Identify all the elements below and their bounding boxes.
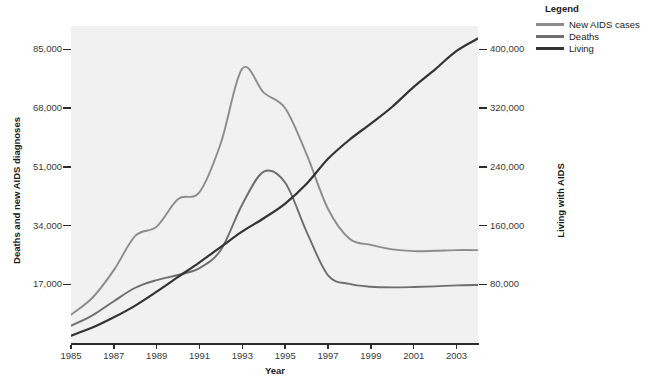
legend-item-2[interactable]: Living — [536, 43, 658, 54]
x-tick-mark — [113, 345, 115, 349]
y-right-tick-mark — [479, 284, 487, 286]
legend-title: Legend — [545, 3, 658, 14]
y-right-tick-label: 160,000 — [490, 220, 524, 231]
legend-line-icon — [536, 23, 564, 26]
x-tick-label: 1999 — [351, 350, 391, 361]
y-left-tick-label: 85,000 — [33, 43, 62, 54]
x-tick-label: 2003 — [437, 350, 477, 361]
legend-item-label: Living — [569, 43, 594, 54]
y-left-tick-mark — [63, 107, 71, 109]
y-right-tick-mark — [479, 166, 487, 168]
y-left-tick-mark — [63, 49, 71, 51]
x-tick-label: 1985 — [51, 350, 91, 361]
x-tick-mark — [199, 345, 201, 349]
y-right-tick-label: 240,000 — [490, 161, 524, 172]
x-tick-mark — [242, 345, 244, 349]
legend-item-1[interactable]: Deaths — [536, 31, 658, 42]
x-tick-mark — [370, 345, 372, 349]
y-left-tick-label: 51,000 — [33, 161, 62, 172]
x-tick-label: 1987 — [94, 350, 134, 361]
x-axis-line — [71, 343, 479, 345]
x-tick-mark — [156, 345, 158, 349]
y-right-tick-label: 400,000 — [490, 43, 524, 54]
legend: Legend New AIDS casesDeathsLiving — [536, 3, 658, 55]
x-tick-label: 2001 — [394, 350, 434, 361]
legend-rows: New AIDS casesDeathsLiving — [536, 19, 658, 54]
legend-line-icon — [536, 35, 564, 38]
x-tick-label: 1989 — [137, 350, 177, 361]
y-right-tick-label: 320,000 — [490, 102, 524, 113]
y-axis-left-title: Deaths and new AIDS diagnoses — [11, 111, 22, 271]
y-left-tick-mark — [63, 225, 71, 227]
legend-item-label: Deaths — [569, 31, 599, 42]
y-left-tick-mark — [63, 166, 71, 168]
x-axis-title: Year — [71, 365, 479, 376]
y-left-tick-label: 17,000 — [33, 278, 62, 289]
legend-line-icon — [536, 47, 564, 50]
y-right-tick-mark — [479, 107, 487, 109]
x-tick-mark — [413, 345, 415, 349]
y-right-tick-mark — [479, 225, 487, 227]
x-tick-label: 1993 — [222, 350, 262, 361]
chart-root: 17,00034,00051,00068,00085,00080,000160,… — [0, 0, 658, 382]
y-right-tick-mark — [479, 49, 487, 51]
x-tick-mark — [284, 345, 286, 349]
x-tick-label: 1995 — [265, 350, 305, 361]
y-right-tick-label: 80,000 — [490, 278, 519, 289]
x-tick-label: 1997 — [308, 350, 348, 361]
y-axis-right-title: Living with AIDS — [555, 131, 566, 271]
x-tick-mark — [70, 345, 72, 349]
y-left-tick-mark — [63, 284, 71, 286]
plot-area — [71, 26, 478, 344]
legend-item-label: New AIDS cases — [569, 19, 640, 30]
x-tick-label: 1991 — [180, 350, 220, 361]
y-left-tick-label: 34,000 — [33, 220, 62, 231]
x-tick-mark — [327, 345, 329, 349]
x-tick-mark — [456, 345, 458, 349]
legend-item-0[interactable]: New AIDS cases — [536, 19, 658, 30]
y-left-tick-label: 68,000 — [33, 102, 62, 113]
